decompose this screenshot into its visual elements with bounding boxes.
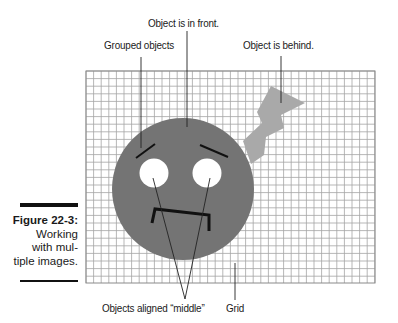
- caption-line-3: tiple images.: [10, 255, 78, 269]
- figure-number: Figure 22-3:: [10, 214, 78, 228]
- grouped-face: [112, 118, 254, 260]
- caption-bottom-rule: [20, 280, 78, 282]
- caption-top-rule: [20, 203, 78, 207]
- figure-stage: Object is in front. Grouped objects Obje…: [0, 0, 398, 323]
- caption-line-2: with mul-: [10, 241, 78, 255]
- figure-caption: Figure 22-3: Working with mul- tiple ima…: [10, 214, 78, 268]
- label-object-behind: Object is behind.: [243, 39, 314, 51]
- right-eye: [193, 159, 222, 188]
- face-circle: [112, 118, 254, 260]
- caption-line-1: Working: [10, 228, 78, 242]
- label-grouped-objects: Grouped objects: [104, 39, 174, 51]
- lightning-bolt-icon: [243, 86, 305, 164]
- label-objects-aligned-middle: Objects aligned “middle”: [102, 302, 205, 314]
- label-grid: Grid: [226, 302, 244, 314]
- illustration: [0, 0, 398, 323]
- label-object-in-front: Object is in front.: [148, 17, 219, 29]
